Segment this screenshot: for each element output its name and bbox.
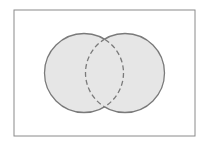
venn-diagram: [0, 0, 210, 146]
